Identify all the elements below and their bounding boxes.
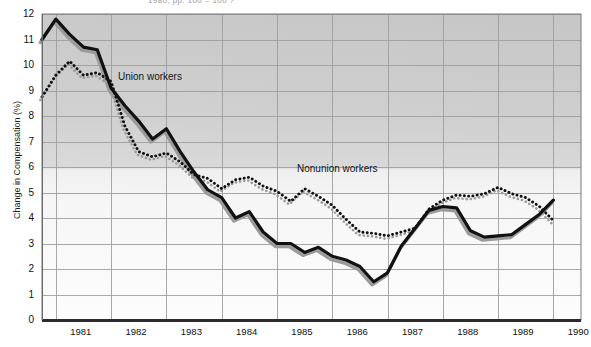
- x-tick-label: 1985: [276, 326, 328, 337]
- y-tick-label: 2: [6, 263, 34, 274]
- y-tick-label: 3: [6, 238, 34, 249]
- x-tick-label: 1983: [165, 326, 217, 337]
- x-tick-label: 1989: [497, 326, 549, 337]
- y-tick-label: 11: [6, 34, 34, 45]
- series-label-nonunion: Nonunion workers: [297, 163, 378, 174]
- x-tick-label: 1988: [442, 326, 494, 337]
- y-tick-label: 0: [6, 314, 34, 325]
- series-label-union: Union workers: [118, 71, 182, 82]
- y-tick-label: 9: [6, 85, 34, 96]
- y-tick-label: 12: [6, 8, 34, 19]
- x-tick-label: 1982: [110, 326, 162, 337]
- y-tick-label: 5: [6, 187, 34, 198]
- y-tick-label: 1: [6, 289, 34, 300]
- y-tick-label: 6: [6, 161, 34, 172]
- x-tick-label: 1990: [552, 326, 591, 337]
- x-tick-label: 1981: [55, 326, 107, 337]
- y-tick-label: 7: [6, 136, 34, 147]
- y-tick-label: 10: [6, 59, 34, 70]
- x-tick-label: 1984: [221, 326, 273, 337]
- plot-svg: [0, 0, 591, 347]
- x-tick-label: 1987: [387, 326, 439, 337]
- y-tick-label: 8: [6, 110, 34, 121]
- y-tick-label: 4: [6, 212, 34, 223]
- chart-container: 1980, pp. 100 = 100 ? Change in Compensa…: [0, 0, 591, 347]
- x-tick-label: 1986: [331, 326, 383, 337]
